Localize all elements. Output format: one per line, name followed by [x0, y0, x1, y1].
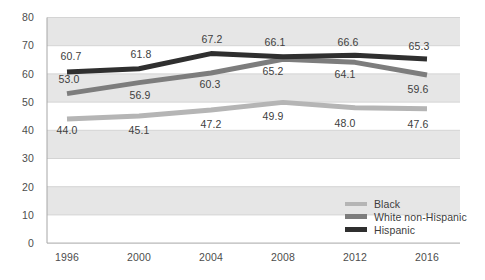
- y-tick-label-60: 60: [8, 68, 34, 80]
- y-tick-label-50: 50: [8, 96, 34, 108]
- x-tick-label-2008: 2008: [253, 251, 313, 263]
- data-label-black-2000: 45.1: [119, 124, 159, 136]
- legend-item-black[interactable]: Black: [345, 197, 467, 210]
- x-tick-label-1996: 1996: [37, 251, 97, 263]
- y-tick-label-80: 80: [8, 11, 34, 23]
- data-label-hispanic-2012: 66.6: [328, 36, 368, 48]
- chart-legend: Black White non-Hispanic Hispanic: [345, 197, 467, 236]
- data-label-white-2008: 65.2: [253, 65, 293, 77]
- legend-swatch-black-icon: [345, 202, 367, 206]
- x-tick-label-2000: 2000: [109, 251, 169, 263]
- data-label-hispanic-2004: 67.2: [192, 33, 232, 45]
- data-label-hispanic-2000: 61.8: [121, 48, 161, 60]
- data-label-white-2004: 60.3: [190, 78, 230, 90]
- legend-label-hispanic: Hispanic: [374, 224, 415, 236]
- x-tick-label-2004: 2004: [181, 251, 241, 263]
- data-label-black-2008: 49.9: [253, 110, 293, 122]
- y-tick-label-0: 0: [8, 237, 34, 249]
- y-tick-label-10: 10: [8, 209, 34, 221]
- legend-label-black: Black: [374, 198, 400, 210]
- legend-item-white-non-hispanic[interactable]: White non-Hispanic: [345, 210, 467, 223]
- legend-swatch-white-non-hispanic-icon: [345, 214, 367, 219]
- legend-label-white-non-hispanic: White non-Hispanic: [374, 211, 467, 223]
- data-label-black-2012: 48.0: [325, 117, 365, 129]
- x-tick-label-2016: 2016: [397, 251, 457, 263]
- data-label-white-2000: 56.9: [120, 89, 160, 101]
- y-tick-label-70: 70: [8, 39, 34, 51]
- legend-item-hispanic[interactable]: Hispanic: [345, 223, 467, 236]
- data-label-white-1996: 53.0: [49, 73, 89, 85]
- legend-swatch-hispanic-icon: [345, 227, 367, 232]
- data-label-hispanic-2016: 65.3: [399, 40, 439, 52]
- data-label-hispanic-1996: 60.7: [51, 50, 91, 62]
- data-label-hispanic-2008: 66.1: [255, 36, 295, 48]
- data-label-black-2016: 47.6: [398, 118, 438, 130]
- data-label-white-2016: 59.6: [398, 83, 438, 95]
- y-tick-label-30: 30: [8, 152, 34, 164]
- data-label-white-2012: 64.1: [325, 68, 365, 80]
- x-tick-label-2012: 2012: [325, 251, 385, 263]
- line-chart: 80 70 60 50 40 30 20 10 0 1996 2000 2004…: [0, 0, 485, 280]
- y-tick-label-40: 40: [8, 124, 34, 136]
- data-label-black-1996: 44.0: [47, 124, 87, 136]
- data-label-black-2004: 47.2: [191, 118, 231, 130]
- y-tick-label-20: 20: [8, 181, 34, 193]
- series-line-black-path: [67, 102, 427, 119]
